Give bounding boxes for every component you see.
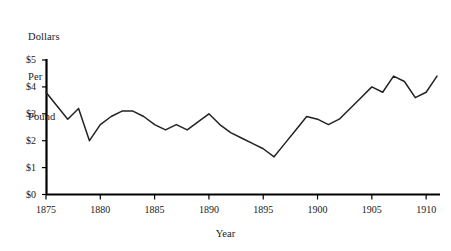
chart-plot-area bbox=[0, 0, 451, 251]
data-series-line bbox=[46, 76, 437, 157]
chart-container: Dollars Per Pound $0$1$2$3$4$5 187518801… bbox=[0, 0, 451, 251]
x-axis-title: Year bbox=[0, 228, 451, 239]
chart-axes bbox=[46, 59, 440, 195]
